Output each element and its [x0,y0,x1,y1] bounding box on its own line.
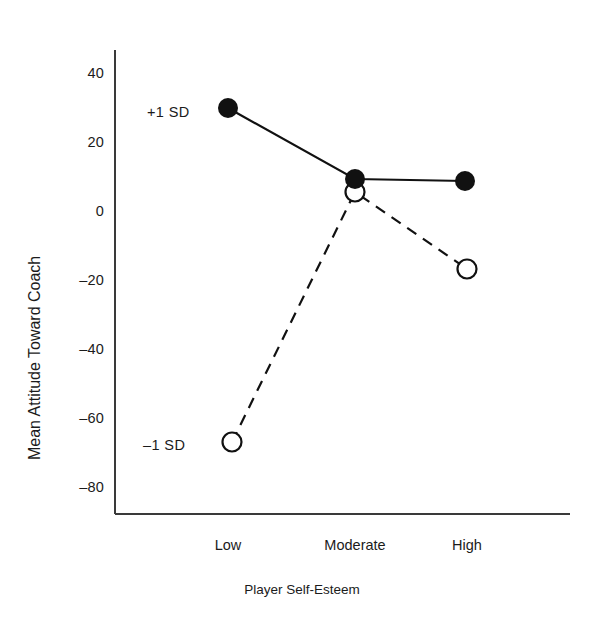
y-tick-label-0: 0 [44,203,104,219]
plot-area [0,0,604,620]
x-axis-title: Player Self-Esteem [0,582,604,597]
series-line-minus1sd [232,192,467,442]
y-axis-title: Mean Attitude Toward Coach [26,256,44,460]
y-tick-label-neg20: –20 [44,272,104,288]
marker-minus1sd-low [223,433,242,452]
y-tick-label-40: 40 [44,65,104,81]
marker-plus1sd-low [218,98,238,118]
chart-figure: 40 20 0 –20 –40 –60 –80 Low Moderate Hig… [0,0,604,620]
x-tick-label-moderate: Moderate [305,537,405,553]
x-tick-label-low: Low [178,537,278,553]
y-tick-label-20: 20 [44,134,104,150]
annotation-minus1sd: –1 SD [143,437,185,453]
y-tick-label-neg60: –60 [44,410,104,426]
series-line-plus1sd [228,108,465,181]
y-tick-label-neg40: –40 [44,341,104,357]
marker-minus1sd-high [458,260,477,279]
x-tick-label-high: High [417,537,517,553]
marker-plus1sd-high [455,171,475,191]
annotation-plus1sd: +1 SD [147,104,190,120]
y-tick-label-neg80: –80 [44,479,104,495]
marker-plus1sd-moderate [345,169,365,189]
